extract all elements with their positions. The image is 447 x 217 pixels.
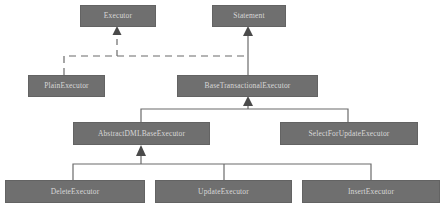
generalization-base-statement (243, 26, 253, 75)
arrowhead-executor (113, 26, 122, 35)
class-node-label: InsertExecutor (345, 188, 397, 196)
edge-abstractdml-children-bus (73, 164, 371, 180)
realization-edge-group (64, 26, 248, 75)
generalization-abstractdml-children (73, 145, 371, 180)
class-node-label: BaseTransactionalExecutor (202, 82, 294, 90)
edge-realization-bus (64, 56, 248, 75)
arrowhead-base-transactional-executor (243, 96, 253, 106)
class-node-label: PlainExecutor (41, 82, 91, 90)
class-node-label: UpdateExecutor (195, 188, 252, 196)
class-node-label: SelectForUpdateExecutor (306, 130, 393, 138)
edge-base-children-bus (141, 109, 348, 122)
arrowhead-abstract-dml-base-executor (136, 145, 146, 156)
class-node-label: Executor (101, 12, 135, 20)
class-node-abstract-dml-base-executor[interactable]: AbstractDMLBaseExecutor (73, 122, 210, 145)
class-node-label: AbstractDMLBaseExecutor (95, 130, 188, 138)
generalization-base-children (141, 96, 348, 122)
class-node-base-transactional-executor[interactable]: BaseTransactionalExecutor (177, 75, 318, 97)
class-node-executor[interactable]: Executor (80, 5, 156, 27)
arrowhead-statement (243, 26, 253, 36)
class-node-insert-executor[interactable]: InsertExecutor (302, 180, 440, 203)
class-node-update-executor[interactable]: UpdateExecutor (155, 180, 292, 203)
class-node-select-for-update-executor[interactable]: SelectForUpdateExecutor (280, 122, 418, 145)
class-node-plain-executor[interactable]: PlainExecutor (28, 75, 105, 97)
class-node-label: Statement (230, 12, 267, 20)
class-node-delete-executor[interactable]: DeleteExecutor (5, 180, 145, 203)
class-node-label: DeleteExecutor (48, 188, 103, 196)
uml-class-diagram: Executor Statement PlainExecutor BaseTra… (0, 0, 447, 217)
class-node-statement[interactable]: Statement (212, 5, 286, 27)
